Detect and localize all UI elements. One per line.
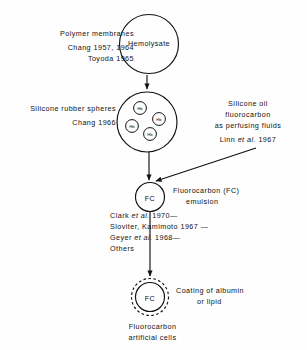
arrow-perfusing-fluids-to-fc: [156, 148, 256, 181]
node-fc-emulsion-label: FC: [135, 194, 165, 203]
node-fc-artificial-cell-label: FC: [135, 294, 165, 303]
fc-citation-3-suffix: 1968—: [153, 233, 181, 242]
fc-citation-3: Geyer et al. 1968—: [110, 233, 180, 244]
annotation-silicone-rubber-spheres-citation-1: Chang 1966: [12, 118, 116, 129]
inclusion-hb-2-label: Hb: [153, 117, 165, 122]
annotation-silicone-rubber-spheres-heading: Silicone rubber spheres: [12, 104, 116, 115]
fc-citation-1-italic: et al.: [131, 211, 149, 220]
bottom-caption-line-1: Fluorocarbon: [95, 322, 210, 333]
annotation-polymer-membranes-citation-2: Toyoda 1965: [26, 54, 134, 65]
annotation-coating-line-2: or lipid: [197, 297, 222, 308]
annotation-polymer-membranes-heading: Polymer membranes: [26, 29, 134, 40]
citation-italic: et al.: [238, 135, 256, 144]
inclusion-hb-1-label: Hb: [134, 106, 146, 111]
fc-citation-1-prefix: Clark: [110, 211, 131, 220]
annotation-fc-emulsion-line-1: Fluorocarbon (FC): [173, 186, 239, 197]
fc-citation-3-prefix: Geyer: [110, 233, 134, 242]
citation-prefix: Linn: [220, 135, 238, 144]
fc-citation-4: Others: [110, 244, 134, 255]
node-silicone-spheres-circle: [117, 92, 177, 152]
inclusion-hb-4-label: Hb: [144, 132, 156, 137]
fc-citation-2-prefix: Sloviter, Kamimoto 1967 —: [110, 222, 208, 231]
flowchart-diagram: Hemolysate FC FC Hb Hb Hb Hb Polymer mem…: [0, 0, 307, 350]
fc-citation-3-italic: et al.: [134, 233, 152, 242]
fc-citation-1-suffix: 1970—: [150, 211, 178, 220]
annotation-perfusing-fluids-line-2: fluorocarbon: [196, 110, 300, 121]
annotation-perfusing-fluids-line-3: as perfusing fluids: [196, 121, 300, 132]
annotation-polymer-membranes-citation-1: Chang 1957, 1964: [26, 43, 134, 54]
annotation-coating-line-1: Coating of albumin: [176, 286, 244, 297]
fc-citation-1: Clark et al. 1970—: [110, 211, 178, 222]
annotation-perfusing-fluids-citation: Linn et al. 1967: [196, 135, 300, 146]
inclusion-hb-3-label: Hb: [126, 124, 138, 129]
annotation-fc-emulsion-line-2: emulsion: [186, 197, 218, 208]
fc-citation-2: Sloviter, Kamimoto 1967 —: [110, 222, 208, 233]
annotation-perfusing-fluids-line-1: Silicone oil: [196, 99, 300, 110]
fc-citation-4-prefix: Others: [110, 244, 134, 253]
citation-suffix: 1967: [256, 135, 276, 144]
bottom-caption-line-2: artificial cells: [95, 333, 210, 344]
